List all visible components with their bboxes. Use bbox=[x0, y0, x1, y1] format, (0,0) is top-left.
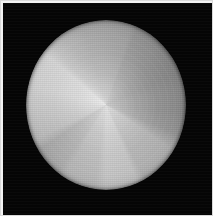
disk-container bbox=[3, 3, 212, 215]
image-viewport bbox=[0, 0, 213, 216]
image-black-field bbox=[3, 3, 212, 215]
radial-sector-disk bbox=[26, 20, 186, 190]
rim-vignette-layer bbox=[26, 20, 186, 190]
